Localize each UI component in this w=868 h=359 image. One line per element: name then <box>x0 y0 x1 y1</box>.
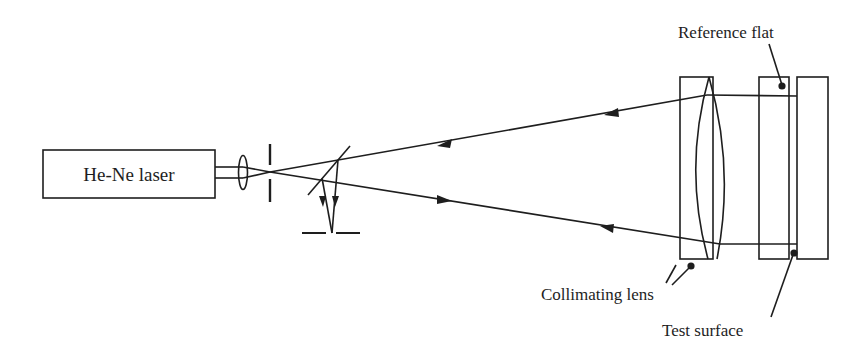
beam-splitter <box>308 146 350 195</box>
test-surface-label: Test surface <box>662 321 743 340</box>
test-surface <box>797 77 828 259</box>
laser-output-beam <box>215 167 270 178</box>
reference-flat-label: Reference flat <box>678 23 774 42</box>
reference-flat <box>759 77 789 259</box>
laser-label: He-Ne laser <box>83 164 175 185</box>
upper-ray <box>270 95 797 172</box>
collimating-lens-label: Collimating lens <box>541 285 654 304</box>
interferometer-diagram: He-Ne laser Reference flat Collimating l… <box>0 0 868 359</box>
collimating-lens <box>680 77 724 259</box>
leader-lines <box>666 44 797 317</box>
focusing-lens <box>239 156 248 190</box>
